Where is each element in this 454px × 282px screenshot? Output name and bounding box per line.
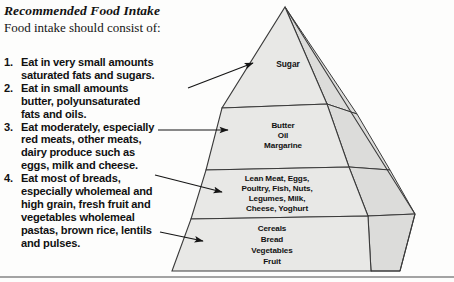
- food-pyramid-figure: Recommended Food Intake Food intake shou…: [0, 0, 454, 282]
- tier-label-line: Margarine: [264, 141, 302, 150]
- tier-label-line: Lean Meat, Eggs,: [245, 174, 310, 183]
- tier-label-line: Cereals: [258, 224, 287, 233]
- pyramid-diagram: Sugar Butter Oil Margarine Lean Meat, Eg…: [0, 0, 454, 282]
- tier-label-line: Oil: [278, 131, 289, 140]
- tier-label-line: Cheese, Yoghurt: [246, 204, 308, 213]
- tier-label-line: Legumes, Milk,: [249, 194, 306, 203]
- tier-sugar-label: Sugar: [276, 59, 300, 69]
- tier-protein-label: Lean Meat, Eggs, Poultry, Fish, Nuts, Le…: [241, 174, 312, 213]
- tier-label-line: Sugar: [276, 59, 300, 69]
- tier-label-line: Vegetables: [251, 246, 293, 255]
- tier-label-line: Poultry, Fish, Nuts,: [241, 184, 312, 193]
- tier-label-line: Butter: [271, 121, 295, 130]
- tier-label-line: Fruit: [263, 257, 281, 266]
- tier-label-line: Bread: [261, 235, 284, 244]
